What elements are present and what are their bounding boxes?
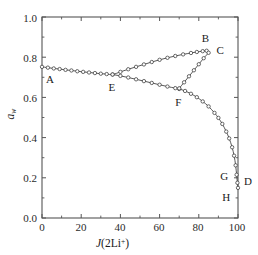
xtick-label-3: 60 <box>144 222 174 233</box>
point-label-d: D <box>244 176 252 187</box>
series-branch-A-E-B <box>40 49 208 76</box>
point-label-e: E <box>109 82 116 93</box>
point-label-g: G <box>220 171 228 182</box>
x-axis-title-rest: (2Li <box>101 237 121 249</box>
point-label-b: B <box>202 33 209 44</box>
xtick-label-4: 80 <box>183 222 213 233</box>
xtick-label-0: 0 <box>27 222 57 233</box>
y-axis-title-sub: w <box>9 109 18 114</box>
ytick-label-4: 0.8 <box>11 53 37 64</box>
ytick-label-2: 0.4 <box>11 133 37 144</box>
axes-frame <box>42 17 238 218</box>
y-axis-title-symbol: a <box>4 114 16 120</box>
xtick-label-1: 20 <box>66 222 96 233</box>
chart-figure: 0.0 0.2 0.4 0.6 0.8 1.0 0 20 40 60 80 10… <box>0 0 258 255</box>
plot-canvas <box>0 0 258 255</box>
point-label-f: F <box>175 97 181 108</box>
ytick-label-1: 0.2 <box>11 173 37 184</box>
series-tie-line-F-C <box>178 51 211 90</box>
axis-ticks <box>42 17 238 218</box>
xtick-label-2: 40 <box>105 222 135 233</box>
data-series <box>40 49 239 189</box>
point-label-a: A <box>46 74 54 85</box>
xtick-label-5: 100 <box>222 222 252 233</box>
y-axis-title: aw <box>5 97 17 131</box>
ytick-label-5: 1.0 <box>11 13 37 24</box>
point-label-h: H <box>222 192 230 203</box>
point-label-c: C <box>217 45 224 56</box>
x-axis-title: J(2Li+) <box>96 238 129 250</box>
x-axis-title-close: ) <box>125 237 129 249</box>
